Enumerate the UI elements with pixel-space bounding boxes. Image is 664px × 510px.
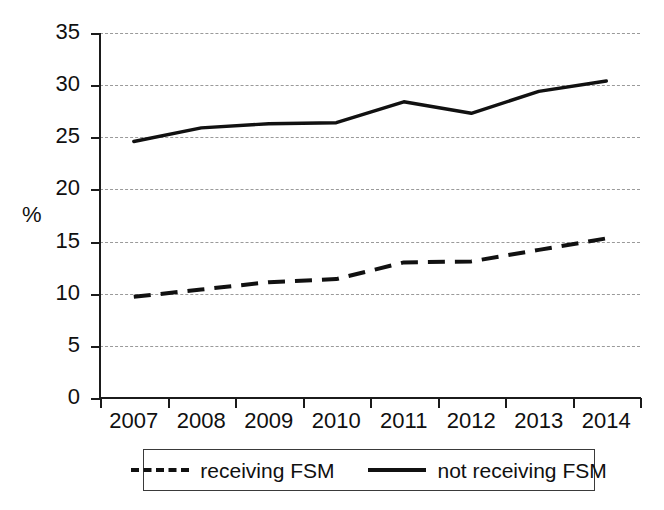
legend: receiving FSM not receiving FSM: [143, 449, 595, 491]
x-axis-tick-label: 2010: [303, 410, 371, 432]
x-axis-tick-label: 2011: [370, 410, 438, 432]
y-axis-line: [99, 33, 101, 399]
legend-label: receiving FSM: [200, 460, 334, 481]
legend-entry-receiving-fsm: receiving FSM: [131, 460, 334, 481]
x-axis-tick-label: 2009: [235, 410, 303, 432]
solid-line-swatch-icon: [368, 468, 426, 472]
y-axis-tick-label: 10: [34, 282, 80, 304]
x-axis-tick: [235, 398, 237, 408]
x-axis-tick: [640, 398, 642, 408]
y-axis-tick-label: 5: [34, 334, 80, 356]
y-axis-tick-label: 25: [34, 125, 80, 147]
x-axis-tick: [100, 398, 102, 408]
y-axis-tick-label: 20: [34, 177, 80, 199]
gridline: [100, 294, 640, 295]
gridline: [100, 242, 640, 243]
legend-entry-not-receiving-fsm: not receiving FSM: [368, 460, 606, 481]
plot-area: [100, 33, 640, 398]
x-axis-tick-label: 2012: [438, 410, 506, 432]
x-axis-tick: [438, 398, 440, 408]
x-axis-tick-label: 2008: [168, 410, 236, 432]
x-axis-tick-label: 2007: [100, 410, 168, 432]
y-axis-title: %: [22, 204, 42, 226]
x-axis-tick: [168, 398, 170, 408]
line-chart: % 05101520253035 20072008200920102011201…: [0, 0, 664, 510]
gridline: [100, 85, 640, 86]
gridline: [100, 33, 640, 34]
y-axis-tick-label: 15: [34, 230, 80, 252]
y-axis-tick-label: 30: [34, 73, 80, 95]
gridline: [100, 137, 640, 138]
x-axis-tick-label: 2014: [573, 410, 641, 432]
dashed-line-swatch-icon: [131, 468, 189, 472]
y-axis-tick-label: 35: [34, 21, 80, 43]
gridline: [100, 189, 640, 190]
legend-label: not receiving FSM: [437, 460, 606, 481]
x-axis-tick: [573, 398, 575, 408]
x-axis-tick: [370, 398, 372, 408]
y-axis-tick-label: 0: [34, 386, 80, 408]
x-axis-tick: [303, 398, 305, 408]
x-axis-tick-label: 2013: [505, 410, 573, 432]
gridline: [100, 346, 640, 347]
x-axis-tick: [505, 398, 507, 408]
